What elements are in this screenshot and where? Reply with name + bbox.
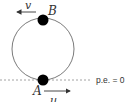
ball-b	[38, 15, 49, 26]
label-b: B	[47, 4, 57, 18]
label-v: v	[25, 0, 32, 12]
label-pe-zero: p.e. = 0	[96, 75, 125, 85]
diagram: v B A u p.e. = 0	[0, 0, 139, 102]
label-u: u	[50, 94, 57, 102]
circular-path	[12, 18, 74, 80]
label-a: A	[32, 84, 42, 98]
